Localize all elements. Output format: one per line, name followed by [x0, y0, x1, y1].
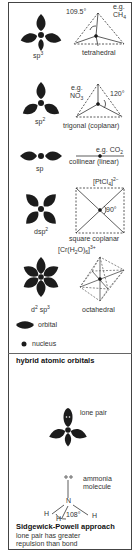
nucleus-legend-label: nucleus	[32, 340, 56, 348]
d2sp3-label: d2 sp3	[31, 306, 50, 314]
orbital-legend-label: orbital	[38, 321, 57, 329]
sp2-label: sp2	[35, 118, 45, 126]
sp3-label: sp3	[33, 52, 43, 60]
tetrahedral-example-formula: CH4	[113, 11, 126, 19]
octahedral-example-formula: [Cr(H2O)6]3+	[58, 246, 96, 254]
hybrid-orbitals-title: hybrid atomic orbitals	[16, 357, 94, 365]
sidgewick-title: Sidgewick-Powell approach	[16, 523, 115, 531]
trigonal-example-label: e.g.	[71, 84, 83, 92]
ammonia-label-line1: ammonia	[83, 475, 112, 483]
octahedral-geometry-icon	[80, 257, 124, 301]
linear-example-formula: e.g. CO2	[96, 146, 123, 154]
sp-label: sp	[36, 165, 43, 173]
tetrahedral-geometry-label: tetrahedral	[82, 49, 115, 57]
trigonal-geometry-label: trigonal (coplanar)	[63, 122, 119, 130]
orbital-diagrams	[0, 0, 135, 553]
lone-pair-label: lone pair	[80, 409, 107, 417]
hydrogen-atom-label-left: H	[44, 510, 49, 518]
nucleus-legend-icon	[22, 342, 27, 347]
sp3-orbital-icon	[20, 14, 63, 51]
trigonal-example-formula: NO3	[70, 92, 83, 100]
octahedral-geometry-label: octahedral	[82, 306, 115, 314]
sidgewick-desc-line1: lone pair has greater	[16, 532, 80, 540]
sp-orbital-icon	[20, 151, 62, 160]
d2sp3-orbital-icon	[21, 257, 60, 297]
square-planar-geometry-label: square coplanar	[69, 235, 119, 243]
linear-geometry-label: collinear (linear)	[69, 158, 119, 166]
dsp2-label: dsp2	[34, 228, 48, 236]
nitrogen-atom-label: N	[66, 497, 71, 505]
ammonia-angle-label: 108°	[66, 511, 80, 519]
tetrahedral-example-label: e.g.	[113, 3, 125, 11]
sidgewick-desc-line2: repulsion than bond	[16, 540, 78, 548]
orbital-legend-icon	[16, 321, 34, 329]
tetrahedral-angle-label: 109.5°	[66, 8, 86, 16]
hydrogen-atom-label-right: H	[92, 512, 97, 520]
trigonal-angle-label: 120°	[110, 90, 124, 98]
sp2-orbital-icon	[21, 82, 62, 117]
dsp2-orbital-icon	[23, 191, 59, 227]
ammonia-label-line2: molecule	[83, 483, 111, 491]
square-planar-angle-label: 90°	[106, 206, 117, 214]
square-planar-example-formula: [PtCl4]2−	[93, 178, 119, 186]
